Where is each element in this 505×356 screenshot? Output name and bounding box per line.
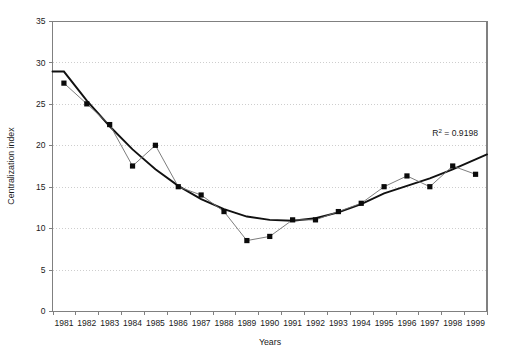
data-point-marker xyxy=(359,201,364,206)
data-point-marker xyxy=(473,172,478,177)
data-point-marker xyxy=(244,238,249,243)
y-tick-label: 10 xyxy=(36,223,46,233)
y-tick-label: 35 xyxy=(36,16,46,26)
data-point-marker xyxy=(61,81,66,86)
y-tick-label: 30 xyxy=(36,58,46,68)
chart-svg: 05101520253035 1981198219831984198519861… xyxy=(0,0,505,356)
x-tick-label: 1996 xyxy=(397,318,416,328)
x-axis-title: Years xyxy=(259,337,282,347)
x-tick-label: 1993 xyxy=(329,318,348,328)
data-point-marker xyxy=(381,184,386,189)
data-point-marker xyxy=(130,163,135,168)
x-tick-label: 1999 xyxy=(466,318,485,328)
data-point-marker xyxy=(290,217,295,222)
data-point-marker xyxy=(107,122,112,127)
data-point-marker xyxy=(313,217,318,222)
y-tick-label: 5 xyxy=(41,265,46,275)
y-tick-label: 25 xyxy=(36,99,46,109)
data-point-marker xyxy=(404,173,409,178)
data-point-marker xyxy=(176,184,181,189)
data-point-marker xyxy=(427,184,432,189)
x-tick-label: 1991 xyxy=(283,318,302,328)
x-tick-label: 1985 xyxy=(146,318,165,328)
x-tick-label: 1998 xyxy=(443,318,462,328)
data-point-marker xyxy=(450,163,455,168)
x-tick-label: 1984 xyxy=(123,318,142,328)
x-tick-label: 1988 xyxy=(215,318,234,328)
x-tick-label: 1989 xyxy=(237,318,256,328)
data-point-marker xyxy=(153,143,158,148)
y-axis-title: Centralization index xyxy=(6,127,16,205)
data-point-marker xyxy=(199,192,204,197)
x-tick-label: 1994 xyxy=(352,318,371,328)
x-tick-label: 1982 xyxy=(77,318,96,328)
x-tick-label: 1997 xyxy=(420,318,439,328)
x-tick-label: 1990 xyxy=(260,318,279,328)
data-point-marker xyxy=(221,209,226,214)
y-tick-label: 15 xyxy=(36,182,46,192)
data-point-marker xyxy=(336,209,341,214)
data-point-marker xyxy=(84,101,89,106)
x-tick-label: 1981 xyxy=(54,318,73,328)
x-tick-label: 1987 xyxy=(192,318,211,328)
centralization-index-chart: 05101520253035 1981198219831984198519861… xyxy=(0,0,505,356)
x-tick-label: 1992 xyxy=(306,318,325,328)
x-tick-label: 1983 xyxy=(100,318,119,328)
x-tick-label: 1986 xyxy=(169,318,188,328)
data-point-marker xyxy=(267,234,272,239)
y-tick-label: 0 xyxy=(41,306,46,316)
y-tick-label: 20 xyxy=(36,140,46,150)
x-tick-label: 1995 xyxy=(375,318,394,328)
